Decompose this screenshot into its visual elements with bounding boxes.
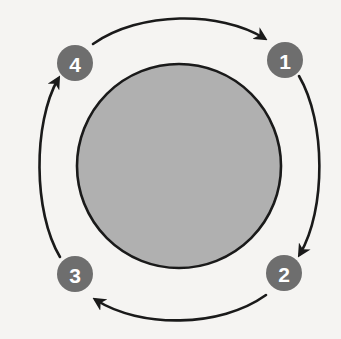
- step-badge-label: 4: [69, 53, 81, 76]
- arrow-4-to-1: [93, 18, 264, 44]
- cycle-diagram-canvas: 1 2 3 4: [0, 0, 341, 339]
- center-core-circle: [77, 64, 281, 268]
- cycle-diagram: 1 2 3 4: [0, 0, 341, 339]
- step-badge-label: 2: [278, 263, 290, 286]
- step-badge-2[interactable]: 2: [266, 255, 302, 291]
- step-badge-4[interactable]: 4: [57, 45, 93, 81]
- arrow-3-to-4: [39, 79, 60, 257]
- step-badge-label: 1: [279, 50, 291, 73]
- step-badge-1[interactable]: 1: [267, 42, 303, 78]
- step-badge-label: 3: [69, 264, 81, 287]
- arrow-2-to-3: [96, 295, 266, 320]
- step-badge-3[interactable]: 3: [57, 256, 93, 292]
- arrow-1-to-2: [299, 76, 319, 254]
